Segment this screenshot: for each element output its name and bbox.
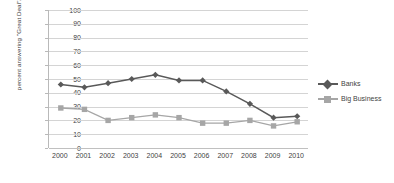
data-point	[129, 115, 134, 120]
y-axis-title: percent answering "Great Deal"/"Quite a …	[15, 0, 22, 98]
data-point	[176, 77, 182, 83]
data-point	[223, 88, 229, 94]
data-point	[294, 113, 300, 119]
data-point	[81, 84, 87, 90]
data-point	[153, 112, 158, 117]
square-marker-icon	[324, 96, 331, 103]
data-point	[176, 115, 181, 120]
data-point	[129, 76, 135, 82]
data-point	[58, 81, 64, 87]
data-point	[247, 101, 253, 107]
legend-item[interactable]: Big Business	[318, 91, 381, 106]
diamond-marker-icon	[323, 79, 333, 89]
legend-label: Banks	[341, 80, 360, 87]
legend-label: Big Business	[341, 95, 381, 102]
legend-swatch	[318, 94, 338, 103]
data-point	[58, 105, 63, 110]
data-point	[247, 118, 252, 123]
data-point	[82, 107, 87, 112]
data-point	[224, 120, 229, 125]
data-point	[200, 120, 205, 125]
legend: BanksBig Business	[318, 76, 381, 106]
y-axis-tick-mark	[45, 148, 48, 149]
data-point	[294, 119, 299, 124]
legend-swatch	[318, 79, 338, 88]
x-axis-tick-label: 2010	[279, 152, 313, 159]
data-point	[271, 123, 276, 128]
data-point	[152, 72, 158, 78]
series-layer	[49, 10, 309, 148]
legend-item[interactable]: Banks	[318, 76, 381, 91]
gridline	[49, 148, 308, 149]
data-point	[105, 118, 110, 123]
series-big-business	[58, 105, 300, 128]
data-point	[105, 80, 111, 86]
plot-area	[48, 10, 308, 148]
data-point	[270, 115, 276, 121]
data-point	[200, 77, 206, 83]
line-chart: percent answering "Great Deal"/"Quite a …	[0, 0, 394, 183]
